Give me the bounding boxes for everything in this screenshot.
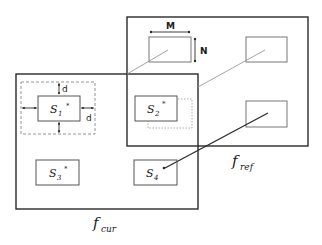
s2-label: S xyxy=(147,103,155,116)
svg-text:3: 3 xyxy=(57,174,62,182)
motion-estimation-diagram: M N d d S xyxy=(0,0,322,245)
label-d-right: d xyxy=(86,113,92,123)
svg-text:f: f xyxy=(92,214,101,232)
s1-star-mark: * xyxy=(66,102,70,110)
motion-vector-s2 xyxy=(198,50,265,87)
svg-text:4: 4 xyxy=(153,174,158,182)
search-margin-left xyxy=(22,107,37,109)
svg-text:1: 1 xyxy=(58,110,62,118)
search-margin-bottom xyxy=(58,122,60,133)
block-s4: S 4 xyxy=(134,160,177,185)
current-frame xyxy=(16,74,198,209)
svg-text:ref: ref xyxy=(240,162,255,172)
s1-label: S xyxy=(50,103,58,116)
block-s1: S 1 * xyxy=(38,96,80,121)
s3-star-mark: * xyxy=(64,165,68,173)
reference-frame-label: f ref xyxy=(231,152,255,172)
svg-text:cur: cur xyxy=(101,224,117,234)
s4-label: S xyxy=(146,167,154,180)
search-margin-right-d: d xyxy=(81,107,94,123)
height-dimension-n: N xyxy=(194,38,208,62)
label-d-top: d xyxy=(62,84,68,94)
block-s2: S 2 * xyxy=(135,96,177,121)
search-margin-top-d: d xyxy=(58,83,68,94)
reference-block-top-right xyxy=(246,37,287,62)
label-m: M xyxy=(166,21,175,31)
s3-label: S xyxy=(49,167,57,180)
s2-star-mark: * xyxy=(162,100,166,108)
svg-text:2: 2 xyxy=(154,110,160,118)
block-s3: S 3 * xyxy=(36,160,79,185)
svg-text:f: f xyxy=(231,152,240,170)
label-n: N xyxy=(200,46,208,56)
motion-vector-s4 xyxy=(165,113,268,168)
reference-block-top-left xyxy=(149,37,191,62)
s4-vector-origin-dot xyxy=(163,167,166,170)
width-dimension-m: M xyxy=(150,21,190,33)
current-frame-label: f cur xyxy=(92,214,117,234)
